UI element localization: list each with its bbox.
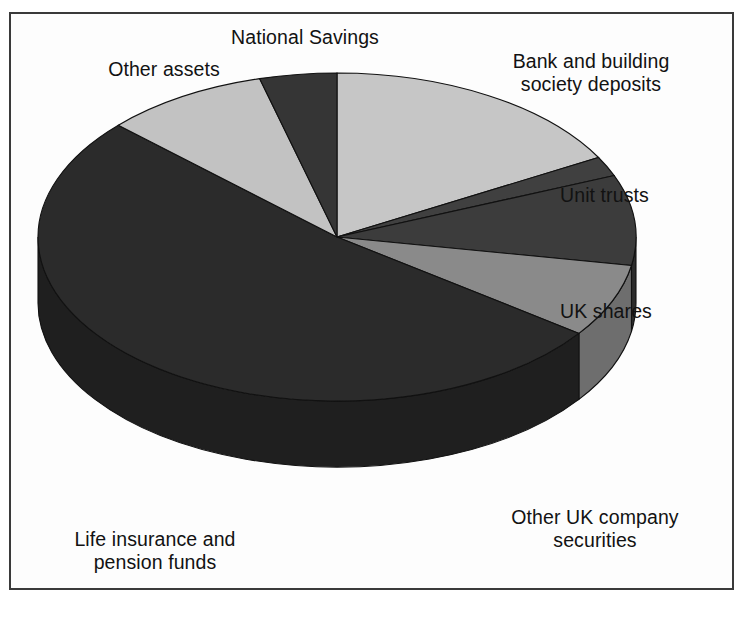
pie-label-other-assets: Other assets (64, 58, 264, 81)
pie-label-bank-and-building-society-deposits: Bank and building society deposits (466, 50, 716, 96)
pie-label-life-insurance-and-pension-funds: Life insurance and pension funds (20, 528, 290, 574)
pie-label-unit-trusts: Unit trusts (560, 184, 735, 207)
chart-stage: National Savings Other assets Bank and b… (0, 0, 745, 617)
pie-label-other-uk-company-securities: Other UK company securities (470, 506, 720, 552)
pie-label-uk-shares: UK shares (560, 300, 735, 323)
pie-label-national-savings: National Savings (180, 26, 430, 49)
